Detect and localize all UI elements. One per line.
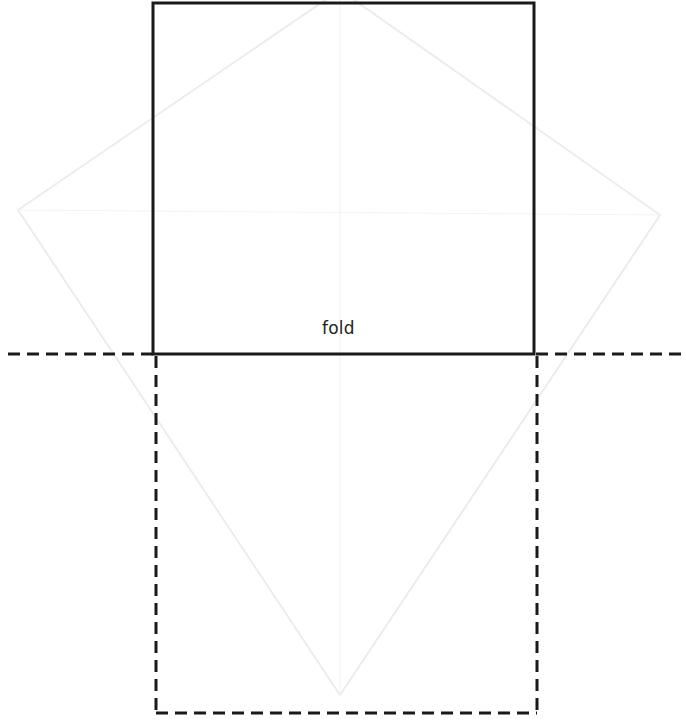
- solid-square: [153, 3, 534, 354]
- ghost-diamond: [18, 0, 660, 695]
- diagram-svg: [0, 0, 686, 722]
- fold-label: fold: [322, 318, 355, 338]
- dashed-square: [156, 356, 537, 713]
- fold-diagram: fold: [0, 0, 686, 722]
